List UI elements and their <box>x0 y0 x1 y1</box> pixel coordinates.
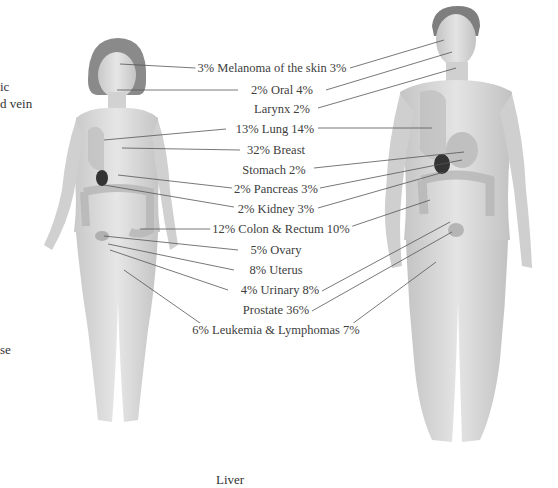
label-larynx: Larynx 2% <box>252 102 312 116</box>
label-colon-rectum: 12% Colon & Rectum 10% <box>210 222 352 236</box>
label-lung: 13% Lung 14% <box>234 122 316 136</box>
label-kidney: 2% Kidney 3% <box>236 202 316 216</box>
label-breast: 32% Breast <box>245 143 307 157</box>
label-leukemia-lymphomas: 6% Leukemia & Lymphomas 7% <box>190 323 361 337</box>
left-margin-text-3: se <box>0 342 11 358</box>
bottom-text-liver: Liver <box>216 472 244 488</box>
label-prostate: Prostate 36% <box>241 303 311 317</box>
male-figure <box>385 6 532 442</box>
label-stomach: Stomach 2% <box>240 163 308 177</box>
left-margin-text-2: d vein <box>0 96 32 112</box>
left-margin-text-1: ic <box>0 79 9 95</box>
label-melanoma: 3% Melanoma of the skin 3% <box>196 61 349 75</box>
label-urinary: 4% Urinary 8% <box>239 283 321 297</box>
female-figure <box>44 38 178 422</box>
label-pancreas: 2% Pancreas 3% <box>232 182 320 196</box>
label-uterus: 8% Uterus <box>247 263 304 277</box>
label-ovary: 5% Ovary <box>248 243 303 257</box>
label-oral: 2% Oral 4% <box>249 83 315 97</box>
